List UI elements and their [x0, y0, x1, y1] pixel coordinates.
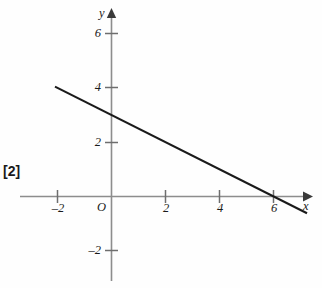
x-axis-label: x	[303, 199, 309, 214]
x-tick-label-4: 4	[210, 201, 230, 216]
y-axis-arrowhead	[107, 8, 116, 18]
y-tick-label-4: 4	[83, 80, 101, 95]
x-tick-label-2: 2	[156, 201, 176, 216]
y-tick-label-6: 6	[83, 26, 101, 41]
y-tick-label-2: 2	[83, 135, 101, 150]
x-tick-label-6: 6	[264, 201, 284, 216]
graph-figure: [2] –2 2 4 6 6 4 2 –2 O x y	[0, 0, 322, 288]
coordinate-plane-svg	[0, 0, 322, 288]
origin-label: O	[97, 200, 106, 215]
y-tick-label--2: –2	[79, 243, 101, 258]
marks-annotation: [2]	[3, 162, 20, 180]
x-tick-label--2: –2	[46, 201, 70, 216]
y-axis-label: y	[99, 6, 105, 21]
